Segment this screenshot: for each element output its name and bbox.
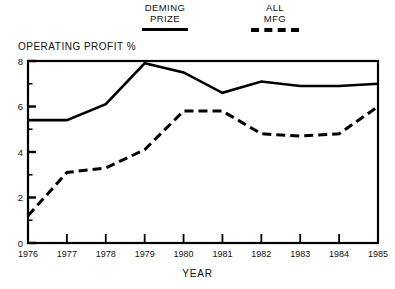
y-tick-label: 8 [18,56,23,67]
series-line-all-mfg [28,107,378,216]
y-tick-label: 6 [18,101,23,112]
y-tick-label: 2 [18,192,23,203]
x-tick-label: 1979 [135,249,155,259]
x-tick-label: 1976 [18,249,38,259]
x-tick-label: 1983 [290,249,310,259]
x-tick-label: 1985 [368,249,388,259]
plot-frame [28,61,378,243]
y-tick-label: 4 [18,147,23,158]
line-chart-svg: 02468 1976197719781979198019811982198319… [0,0,395,289]
y-axis-ticks: 02468 [18,56,36,249]
x-tick-label: 1984 [329,249,349,259]
x-axis-title: YEAR [0,268,395,279]
x-tick-label: 1980 [174,249,194,259]
x-tick-label: 1977 [57,249,77,259]
x-tick-label: 1978 [96,249,116,259]
y-tick-label: 0 [18,238,23,249]
x-tick-label: 1981 [212,249,232,259]
x-tick-label: 1982 [251,249,271,259]
chart-plot-area: 02468 1976197719781979198019811982198319… [0,0,395,289]
x-axis-ticks: 1976197719781979198019811982198319841985 [18,234,388,259]
